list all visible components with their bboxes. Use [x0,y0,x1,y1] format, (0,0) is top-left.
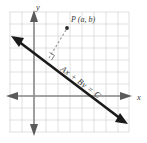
x-axis-label: x [136,92,141,102]
coordinate-plane-svg: y x P (a, b) Ax + By = C [0,0,147,143]
geometry-figure: y x P (a, b) Ax + By = C [0,0,147,143]
point-p-dot [65,26,69,30]
y-axis-label: y [35,2,40,12]
point-p-label: P (a, b) [70,15,95,24]
